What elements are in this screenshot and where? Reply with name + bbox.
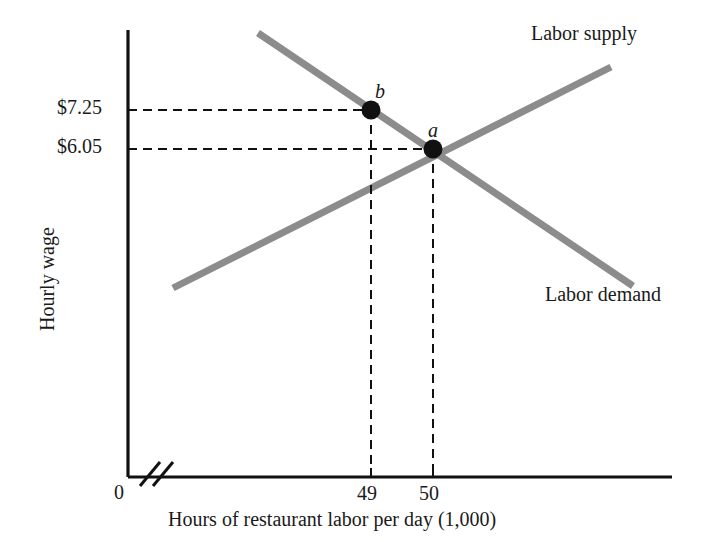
origin-label: 0 <box>114 481 124 504</box>
labor-supply-label: Labor supply <box>531 22 637 45</box>
supply-demand-chart: $7.25 $6.05 49 50 0 b a Labor supply Lab… <box>0 0 716 542</box>
data-point-b-marker <box>362 101 381 120</box>
x-tick-label-50: 50 <box>419 482 439 505</box>
data-point-a-marker <box>424 140 443 159</box>
y-tick-label-605: $6.05 <box>57 135 102 158</box>
data-point-label-b: b <box>375 80 385 103</box>
chart-canvas <box>0 0 716 542</box>
labor-demand-curve <box>258 33 633 286</box>
y-axis-title: Hourly wage <box>36 227 59 331</box>
labor-demand-label: Labor demand <box>545 283 661 306</box>
x-tick-label-49: 49 <box>357 482 377 505</box>
labor-supply-curve <box>173 67 611 288</box>
y-tick-label-725: $7.25 <box>57 96 102 119</box>
data-point-label-a: a <box>428 119 438 142</box>
x-axis-title: Hours of restaurant labor per day (1,000… <box>168 508 496 531</box>
